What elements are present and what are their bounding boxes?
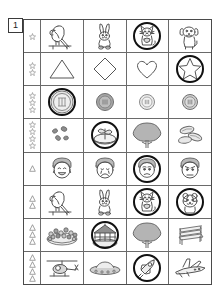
grid-cell[interactable] — [127, 252, 170, 284]
triangle-icon — [29, 202, 36, 209]
grid-cell[interactable] — [169, 219, 211, 251]
grid-row — [24, 53, 211, 86]
triangle-icon — [29, 195, 36, 202]
star-icon — [29, 62, 36, 69]
grid-cell[interactable] — [169, 153, 211, 185]
parrot-icon — [43, 187, 81, 217]
sprout-icon — [86, 120, 124, 150]
grid-cell[interactable] — [84, 20, 127, 52]
grid-cell[interactable] — [127, 86, 170, 118]
star-icon — [29, 135, 36, 142]
star-icon — [29, 128, 36, 135]
airplane-icon — [171, 253, 209, 283]
exercise-number-badge: 1 — [8, 18, 23, 33]
star-icon — [171, 54, 209, 84]
grid-cell[interactable] — [84, 186, 127, 218]
grid-cell[interactable] — [169, 119, 211, 151]
grid-cell[interactable] — [169, 252, 211, 284]
face-worried-icon — [128, 154, 166, 184]
grid-row — [24, 119, 211, 152]
grid-cell[interactable] — [169, 20, 211, 52]
diamond-icon — [86, 54, 124, 84]
star-icon — [29, 142, 36, 149]
coin-small-dark-icon — [171, 87, 209, 117]
grid-cell[interactable] — [41, 20, 84, 52]
grid-cell[interactable] — [169, 53, 211, 85]
star-icon — [29, 106, 36, 113]
grid-cell[interactable] — [41, 53, 84, 85]
grid-cell[interactable] — [41, 119, 84, 151]
grid-cell[interactable] — [127, 53, 170, 85]
star-icon — [29, 92, 36, 99]
grid-cell[interactable] — [127, 219, 170, 251]
grid-row — [24, 20, 211, 53]
cat-icon — [128, 21, 166, 51]
dog-icon — [171, 21, 209, 51]
cat-icon — [128, 187, 166, 217]
grid-cell[interactable] — [127, 186, 170, 218]
grid-cell[interactable] — [127, 153, 170, 185]
seeds-icon — [43, 120, 81, 150]
face-sad-icon — [86, 154, 124, 184]
heart-icon — [128, 54, 166, 84]
grid-cell[interactable] — [41, 153, 84, 185]
grid-row — [24, 153, 211, 186]
row-marker-triangle-1 — [24, 153, 41, 185]
row-marker-triangle-4 — [24, 252, 41, 284]
beans-icon — [171, 120, 209, 150]
ufo-icon — [86, 253, 124, 283]
triangle-icon — [29, 275, 36, 282]
triangle-icon — [43, 54, 81, 84]
grid-cell[interactable] — [41, 219, 84, 251]
grid-cell[interactable] — [41, 86, 84, 118]
triangle-icon — [29, 231, 36, 238]
coin-small-icon — [128, 87, 166, 117]
grid-cell[interactable] — [84, 53, 127, 85]
grid-cell[interactable] — [127, 119, 170, 151]
face-angry-icon — [171, 154, 209, 184]
tree-icon — [128, 220, 166, 250]
row-marker-star-3 — [24, 86, 41, 118]
tree-icon — [128, 120, 166, 150]
grid-cell[interactable] — [41, 252, 84, 284]
grid-row — [24, 86, 211, 119]
worksheet-sheet: 1 — [0, 0, 224, 300]
star-icon — [29, 99, 36, 106]
grid-cell[interactable] — [41, 186, 84, 218]
star-icon — [29, 69, 36, 76]
grid-cell[interactable] — [84, 153, 127, 185]
rabbit-icon — [86, 21, 124, 51]
grid-cell[interactable] — [84, 119, 127, 151]
row-marker-triangle-3 — [24, 219, 41, 251]
triangle-icon — [29, 268, 36, 275]
parrot-icon — [43, 21, 81, 51]
coin-large-icon — [43, 87, 81, 117]
grid-row — [24, 252, 211, 284]
grid-cell[interactable] — [84, 219, 127, 251]
picture-grid — [23, 19, 212, 285]
hamster-icon — [171, 187, 209, 217]
row-marker-star-4 — [24, 119, 41, 151]
helicopter-icon — [43, 253, 81, 283]
star-icon — [29, 121, 36, 128]
row-marker-star-2 — [24, 53, 41, 85]
row-marker-star-1 — [24, 20, 41, 52]
bench-icon — [171, 220, 209, 250]
grid-cell[interactable] — [127, 20, 170, 52]
grid-cell[interactable] — [169, 86, 211, 118]
grid-cell[interactable] — [169, 186, 211, 218]
flowerbed-icon — [43, 220, 81, 250]
grid-cell[interactable] — [84, 86, 127, 118]
rabbit-icon — [86, 187, 124, 217]
rocket-icon — [128, 253, 166, 283]
triangle-icon — [29, 238, 36, 245]
triangle-icon — [29, 165, 36, 172]
grid-row — [24, 186, 211, 219]
coin-medium-icon — [86, 87, 124, 117]
triangle-icon — [29, 224, 36, 231]
gazebo-icon — [86, 220, 124, 250]
triangle-icon — [29, 254, 36, 261]
triangle-icon — [29, 261, 36, 268]
grid-row — [24, 219, 211, 252]
grid-cell[interactable] — [84, 252, 127, 284]
